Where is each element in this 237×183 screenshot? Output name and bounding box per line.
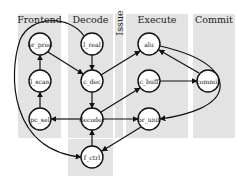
node-label: l_scan <box>30 78 49 86</box>
lane-title: Frontend <box>17 14 62 25</box>
swimlanes: FrontendDecodeIssueExecuteCommit <box>17 10 235 176</box>
node-l_scan: l_scan <box>29 70 51 92</box>
node-label: l_real <box>83 41 100 49</box>
node-label: alu <box>144 41 154 48</box>
node-label: decoder <box>79 116 104 123</box>
node-pc_sel: pc_sel <box>29 108 51 130</box>
node-label: c_buff <box>140 78 160 86</box>
node-c_buff: c_buff <box>138 70 160 92</box>
pipeline-diagram: FrontendDecodeIssueExecuteCommit br_pred… <box>0 0 237 183</box>
lane-title: Execute <box>138 14 177 25</box>
lane-title: Commit <box>195 14 233 25</box>
node-br_unit: br_unit <box>138 108 161 130</box>
node-label: br_unit <box>138 116 161 124</box>
node-label: br_pred <box>28 41 53 49</box>
node-alu: alu <box>138 33 160 55</box>
node-commit: commit <box>196 70 220 92</box>
node-l_real: l_real <box>81 33 103 55</box>
lane-title: Issue <box>114 10 125 36</box>
node-c_dec: c_dec <box>81 70 103 92</box>
node-label: c_dec <box>83 78 101 86</box>
lane-title: Decode <box>73 14 109 25</box>
node-br_pred: br_pred <box>28 33 53 55</box>
node-f_ctrl: f_ctrl <box>81 146 103 168</box>
node-label: commit <box>196 78 220 85</box>
node-label: f_ctrl <box>84 154 100 162</box>
node-label: pc_sel <box>30 116 49 124</box>
